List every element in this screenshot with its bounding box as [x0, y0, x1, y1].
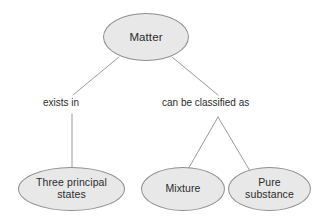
edge-matter-to-can-be-classified-as [172, 57, 218, 95]
edge-label-can-be-classified-as: can be classified as [162, 98, 249, 108]
edge-matter-to-exists-in [73, 57, 119, 95]
node-matter-label: Matter [125, 31, 166, 44]
node-matter[interactable]: Matter [103, 13, 189, 61]
node-pure-substance-label: Pure substance [241, 177, 298, 201]
edge-label-exists-in: exists in [43, 98, 79, 108]
edge-classified-to-mixture [187, 117, 218, 171]
node-pure-substance[interactable]: Pure substance [228, 167, 311, 211]
node-three-principal-states-label: Three principal states [32, 177, 111, 201]
node-mixture-label: Mixture [161, 183, 204, 195]
concept-map-diagram: Matter Three principal states Mixture Pu… [0, 0, 323, 221]
edge-classified-to-pure-substance [218, 117, 250, 171]
node-mixture[interactable]: Mixture [141, 167, 225, 211]
node-three-principal-states[interactable]: Three principal states [18, 167, 125, 211]
